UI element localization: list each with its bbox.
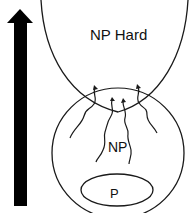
arrow-up-icon xyxy=(7,9,33,206)
np-hard-region xyxy=(41,0,188,112)
p-label: P xyxy=(110,186,119,201)
arrowhead-icons xyxy=(93,84,141,103)
np-label: NP xyxy=(108,139,127,155)
np-hard-label: NP Hard xyxy=(90,26,147,43)
